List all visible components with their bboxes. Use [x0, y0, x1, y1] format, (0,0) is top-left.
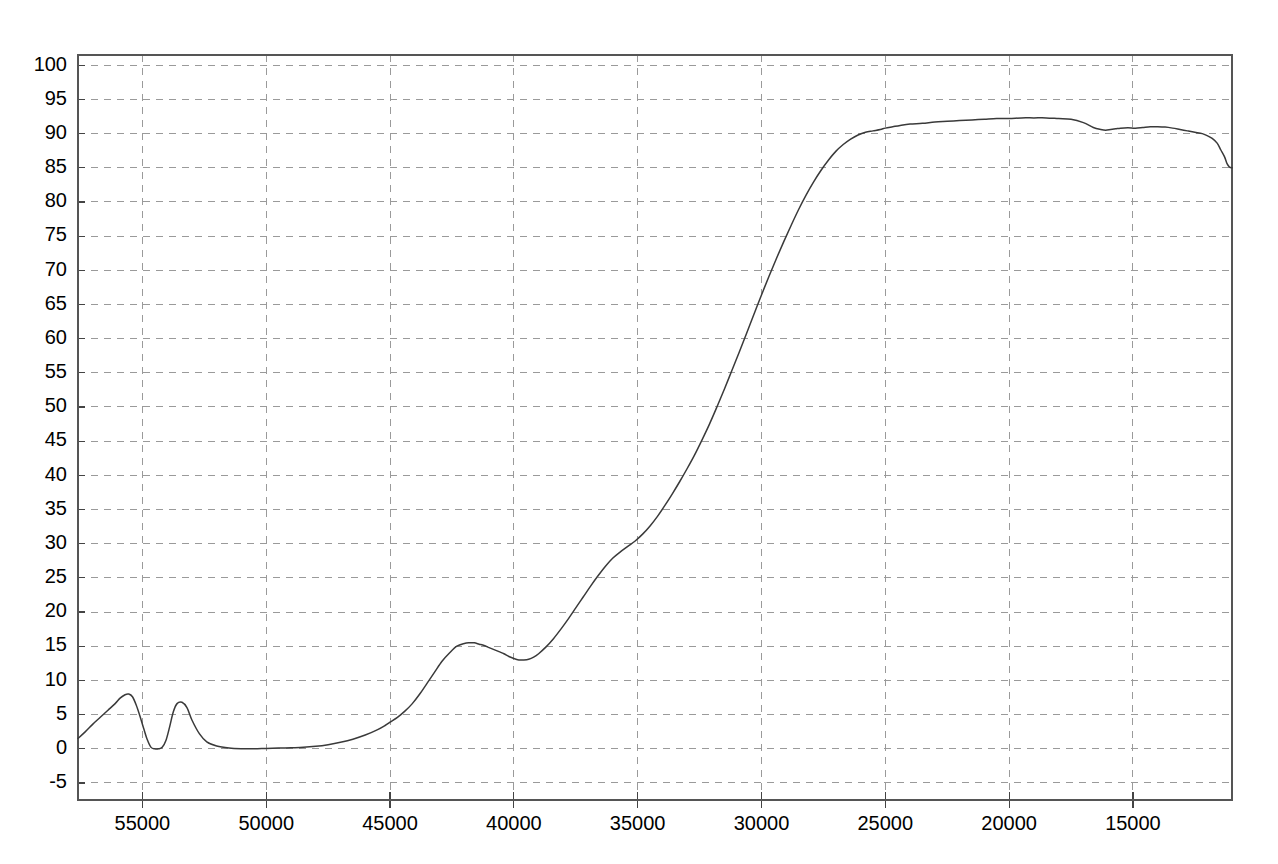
y-tick-label: 10 [45, 668, 67, 690]
x-axis-tick-labels: 5500050000450004000035000300002500020000… [115, 812, 1161, 834]
x-tick-label: 15000 [1105, 812, 1161, 834]
y-tick-label: 80 [45, 189, 67, 211]
y-tick-label: 30 [45, 531, 67, 553]
y-tick-label: 70 [45, 258, 67, 280]
x-tick-label: 55000 [115, 812, 171, 834]
y-tick-label: 50 [45, 394, 67, 416]
y-tick-label: 90 [45, 121, 67, 143]
y-tick-label: 60 [45, 326, 67, 348]
x-tick-label: 30000 [734, 812, 790, 834]
chart-root: -505101520253035404550556065707580859095… [0, 0, 1278, 864]
x-tick-label: 20000 [981, 812, 1037, 834]
y-tick-label: 35 [45, 497, 67, 519]
y-tick-label: 0 [56, 736, 67, 758]
y-tick-label: 40 [45, 463, 67, 485]
y-tick-label: 5 [56, 702, 67, 724]
y-tick-label: 85 [45, 155, 67, 177]
y-tick-label: 65 [45, 292, 67, 314]
y-tick-label: 95 [45, 87, 67, 109]
x-tick-label: 45000 [362, 812, 418, 834]
y-tick-label: 15 [45, 633, 67, 655]
y-tick-label: -5 [49, 770, 67, 792]
y-tick-label: 20 [45, 599, 67, 621]
y-tick-label: 25 [45, 565, 67, 587]
y-tick-label: 100 [34, 53, 67, 75]
transmittance-spectrum-chart: -505101520253035404550556065707580859095… [0, 0, 1278, 864]
y-tick-label: 75 [45, 223, 67, 245]
y-tick-label: 55 [45, 360, 67, 382]
x-tick-label: 25000 [857, 812, 913, 834]
chart-background [0, 0, 1278, 864]
x-tick-label: 50000 [238, 812, 294, 834]
x-tick-label: 40000 [486, 812, 542, 834]
y-tick-label: 45 [45, 428, 67, 450]
x-tick-label: 35000 [610, 812, 666, 834]
